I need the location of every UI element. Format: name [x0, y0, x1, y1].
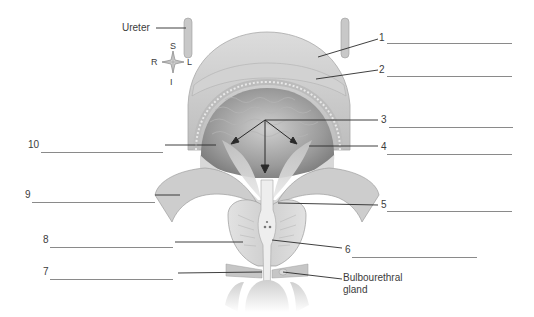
anatomy-figure: Ureter Bulbourethral gland S I R L 1 2 3… [0, 0, 534, 317]
compass-left: L [187, 57, 192, 67]
answer-blank-1[interactable] [387, 43, 512, 44]
bladder-illustration [0, 0, 534, 317]
answer-blank-9[interactable] [32, 202, 155, 203]
label-number-2: 2 [379, 65, 385, 75]
label-number-3: 3 [381, 115, 387, 125]
label-number-6: 6 [345, 245, 351, 255]
compass-superior: S [170, 41, 176, 51]
answer-blank-5[interactable] [387, 211, 512, 212]
label-bulbourethral-line1: Bulbourethral [343, 273, 402, 283]
ureter-left-tube [184, 18, 192, 58]
label-number-10: 10 [28, 140, 39, 150]
answer-blank-10[interactable] [41, 152, 163, 153]
answer-blank-7[interactable] [50, 279, 173, 280]
orientation-compass-icon [162, 51, 184, 73]
label-number-5: 5 [381, 200, 387, 210]
compass-right: R [151, 57, 158, 67]
compass-inferior: I [170, 77, 173, 87]
answer-blank-2[interactable] [387, 76, 512, 77]
label-number-1: 1 [379, 33, 385, 43]
label-bulbourethral-line2: gland [343, 285, 367, 295]
answer-blank-4[interactable] [387, 154, 512, 155]
answer-blank-3[interactable] [389, 127, 513, 128]
ureter-right-tube [341, 18, 349, 58]
label-number-8: 8 [43, 235, 49, 245]
label-number-4: 4 [381, 142, 387, 152]
label-number-7: 7 [43, 267, 49, 277]
answer-blank-8[interactable] [50, 247, 173, 248]
label-ureter: Ureter [122, 23, 150, 33]
answer-blank-6[interactable] [352, 257, 477, 258]
label-number-9: 9 [25, 190, 31, 200]
